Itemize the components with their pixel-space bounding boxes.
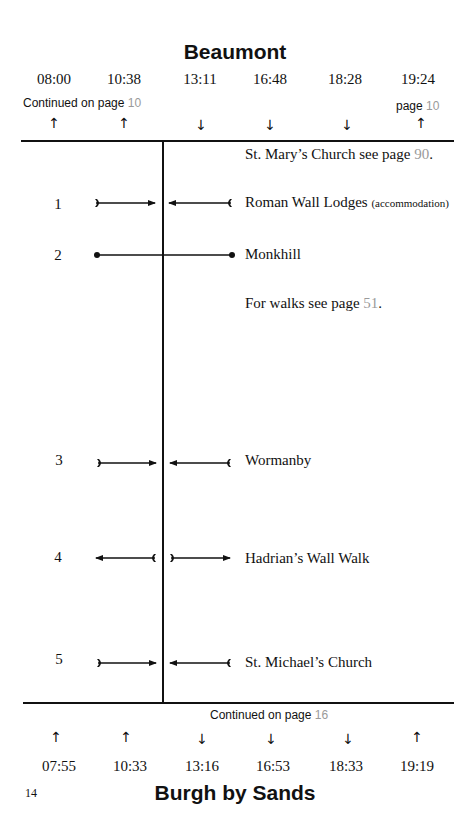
route-point-number: 5	[49, 651, 69, 668]
route-point-label: Hadrian’s Wall Walk	[245, 550, 370, 567]
route-point-label: Monkhill	[245, 246, 301, 263]
route-point-label: Roman Wall Lodges (accommodation)	[245, 194, 449, 211]
bottom-time: 13:16	[172, 758, 232, 775]
down-arrow-icon: ↓	[256, 731, 286, 747]
page-link[interactable]: 51	[363, 295, 378, 311]
up-arrow-icon: ↑	[402, 729, 432, 745]
bottom-time: 16:53	[243, 758, 303, 775]
bottom-time: 19:19	[387, 758, 447, 775]
route-point-number: 4	[48, 549, 68, 566]
route-point-number: 1	[48, 196, 68, 213]
bottom-continued: Continued on page 16	[210, 708, 328, 722]
bottom-time: 18:33	[316, 758, 376, 775]
route-point-label: St. Michael’s Church	[245, 654, 372, 671]
up-arrow-icon: ↑	[41, 729, 71, 745]
route-point-label: Wormanby	[245, 452, 311, 469]
connector-row-2	[94, 252, 235, 258]
route-point-number: 3	[49, 452, 69, 469]
down-arrow-icon: ↓	[333, 731, 363, 747]
page-link[interactable]: 16	[315, 708, 328, 722]
bottom-stop-title: Burgh by Sands	[0, 781, 470, 805]
down-arrow-icon: ↓	[187, 731, 217, 747]
bottom-time: 10:33	[100, 758, 160, 775]
route-connectors	[0, 0, 470, 831]
up-arrow-icon: ↑	[111, 729, 141, 745]
route-point-number: 2	[48, 247, 68, 264]
continued-text: Continued on page	[210, 708, 311, 722]
walks-note: For walks see page 51.	[245, 295, 382, 312]
bottom-time: 07:55	[29, 758, 89, 775]
